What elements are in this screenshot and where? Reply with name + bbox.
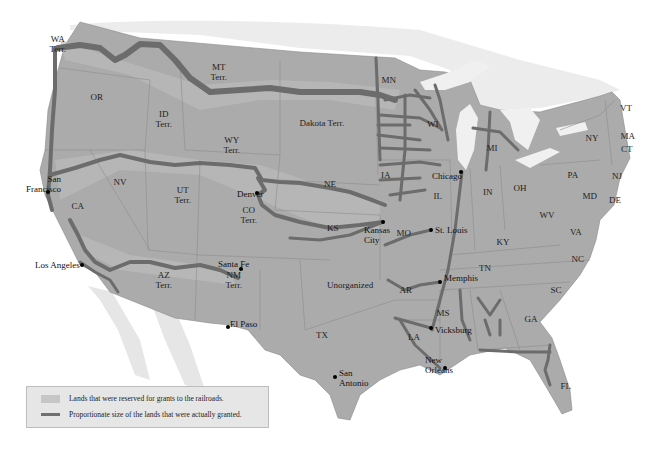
city-label: Kansas City — [364, 225, 390, 245]
region-label-wv: WV — [540, 210, 555, 220]
region-label-ks: KS — [327, 223, 339, 233]
region-label-ar: AR — [400, 285, 413, 295]
city-label: Memphis — [444, 273, 478, 283]
region-label-wi: WI — [427, 119, 439, 129]
region-label-sc: SC — [551, 285, 562, 295]
region-label-ct: CT — [621, 144, 633, 154]
region-label-nv: NV — [114, 177, 127, 187]
region-label-de: DE — [609, 195, 621, 205]
region-label-or: OR — [91, 92, 104, 102]
reserved-land-swatch — [41, 395, 60, 403]
region-label-unorg: Unorganized — [327, 280, 373, 290]
region-label-wy: WY Terr. — [224, 135, 241, 155]
region-label-md: MD — [583, 191, 598, 201]
region-label-il: IL — [434, 191, 443, 201]
region-label-dakota: Dakota Terr. — [300, 118, 345, 128]
city-label: Chicago — [432, 171, 462, 181]
region-label-wa: WA Terr. — [50, 34, 67, 54]
region-label-az: AZ Terr. — [156, 270, 173, 290]
region-label-ut: UT Terr. — [175, 185, 192, 205]
city-label: St. Louis — [435, 225, 468, 235]
region-label-la: LA — [408, 332, 420, 342]
city-label: Santa Fe — [218, 259, 249, 269]
city-label: Denver — [237, 189, 264, 199]
region-label-ny: NY — [586, 133, 599, 143]
region-label-vt: VT — [620, 103, 632, 113]
region-label-pa: PA — [568, 170, 579, 180]
city-dot-icon — [429, 228, 433, 232]
map-legend: Lands that were reserved for grants to t… — [26, 386, 269, 428]
region-label-fl: FL — [561, 381, 572, 391]
region-label-ga: GA — [525, 314, 538, 324]
legend-label-reserved: Lands that were reserved for grants to t… — [69, 394, 224, 403]
legend-item-granted: Proportionate size of the lands that wer… — [41, 410, 242, 419]
city-dot-icon — [333, 375, 337, 379]
region-label-ma: MA — [621, 131, 636, 141]
region-label-nj: NJ — [612, 171, 622, 181]
region-label-ca: CA — [72, 201, 85, 211]
region-label-nc: NC — [572, 254, 585, 264]
city-label: Vicksburg — [435, 325, 472, 335]
region-label-mn: MN — [382, 75, 397, 85]
region-label-id: ID Terr. — [156, 109, 173, 129]
region-label-va: VA — [570, 227, 582, 237]
region-label-mi: MI — [487, 143, 498, 153]
region-label-ne: NE — [324, 179, 336, 189]
city-label: New Orleans — [425, 355, 453, 375]
city-label: Los Angeles — [35, 260, 80, 270]
region-label-nm: NM Terr. — [226, 270, 243, 290]
region-label-ky: KY — [497, 237, 510, 247]
city-label: El Paso — [230, 319, 257, 329]
region-label-mo: MO — [397, 228, 412, 238]
region-label-tx: TX — [316, 330, 328, 340]
region-label-tn: TN — [479, 263, 491, 273]
legend-item-reserved: Lands that were reserved for grants to t… — [41, 394, 224, 403]
city-dot-icon — [80, 263, 84, 267]
region-label-co: CO Terr. — [241, 205, 258, 225]
region-label-mt: MT Terr. — [211, 62, 228, 82]
region-label-ia: IA — [381, 170, 391, 180]
region-label-oh: OH — [514, 183, 527, 193]
city-dot-icon — [429, 326, 433, 330]
legend-label-granted: Proportionate size of the lands that wer… — [69, 410, 242, 419]
region-label-ms: MS — [437, 308, 450, 318]
region-label-in: IN — [483, 187, 493, 197]
city-dot-icon — [438, 280, 442, 284]
city-dot-icon — [381, 220, 385, 224]
granted-line-swatch — [41, 413, 60, 416]
city-label: San Francisco — [26, 174, 61, 194]
city-label: San Antonio — [339, 368, 369, 388]
